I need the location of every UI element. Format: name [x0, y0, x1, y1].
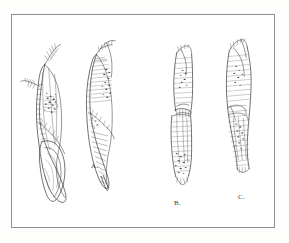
figure-label-b: B. — [174, 200, 181, 207]
figure-a-left-drawing — [21, 44, 66, 203]
figure-label-c: C. — [238, 194, 245, 201]
figure-c-drawing — [226, 39, 251, 173]
specimen-illustrations: .ol { fill: none; stroke: #333333; strok… — [12, 15, 274, 227]
plate-frame-border: .ol { fill: none; stroke: #333333; strok… — [11, 14, 275, 228]
figure-label-a: A. — [91, 163, 98, 170]
figure-b-drawing — [171, 45, 193, 185]
illustration-plate: .ol { fill: none; stroke: #333333; strok… — [0, 0, 289, 243]
